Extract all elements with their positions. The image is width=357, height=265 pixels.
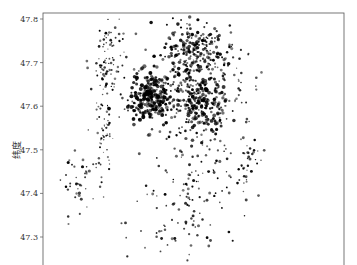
y-tick-label: 47.8: [20, 15, 38, 24]
y-axis-ticks: 47.847.747.647.547.447.3: [20, 15, 43, 242]
y-tick-label: 47.6: [20, 102, 38, 111]
y-tick-label: 47.7: [20, 59, 38, 68]
y-tick-label: 47.4: [20, 189, 38, 198]
y-axis-label: 纬度: [11, 141, 22, 159]
scatter-plot: 47.847.747.647.547.447.3 纬度: [0, 0, 357, 265]
y-tick-label: 47.3: [20, 233, 38, 242]
y-tick-label: 47.5: [20, 146, 38, 155]
